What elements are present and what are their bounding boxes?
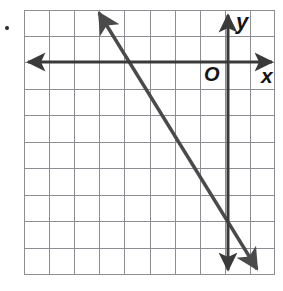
y-axis-label: y: [235, 9, 250, 34]
origin-label: O: [204, 63, 220, 85]
x-axis-label: x: [260, 64, 274, 87]
bullet-marker-icon: [5, 26, 9, 30]
coordinate-plane-svg: y x O: [0, 0, 283, 291]
graph-figure: y x O: [0, 0, 283, 291]
